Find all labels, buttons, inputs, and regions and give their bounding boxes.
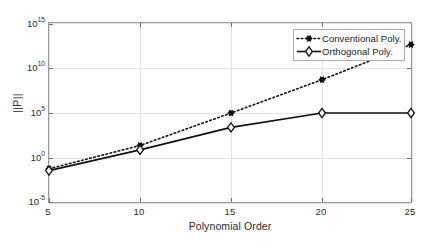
legend: Conventional Poly. Orthogonal Poly. bbox=[293, 29, 405, 61]
x-axis-label: Polynomial Order bbox=[48, 220, 412, 232]
yticklabel-1e5: 105 bbox=[31, 107, 45, 118]
series-line-orthogonal-poly bbox=[49, 113, 411, 171]
figure-canvas: 1015 1010 105 100 10-5 5 10 15 20 25 Pol… bbox=[0, 0, 437, 251]
xticklabel-20: 20 bbox=[316, 206, 327, 217]
xticklabel-25: 25 bbox=[405, 206, 416, 217]
legend-label-orthogonal-poly: Orthogonal Poly. bbox=[322, 46, 393, 57]
markers-orthogonal-poly bbox=[46, 108, 415, 175]
legend-label-conventional-poly: Conventional Poly. bbox=[322, 33, 401, 44]
yticklabel-1e0: 100 bbox=[31, 152, 45, 163]
yticklabel-1e15: 1015 bbox=[27, 18, 45, 29]
legend-entry-conventional-poly: Conventional Poly. bbox=[296, 32, 401, 45]
xticklabel-10: 10 bbox=[134, 206, 145, 217]
yticklabel-1e-5: 10-5 bbox=[29, 196, 45, 207]
legend-entry-orthogonal-poly: Orthogonal Poly. bbox=[296, 45, 401, 58]
xticklabel-5: 5 bbox=[45, 206, 50, 217]
markers-conventional-poly bbox=[46, 42, 415, 172]
xticklabel-15: 15 bbox=[225, 206, 236, 217]
series-line-conventional-poly bbox=[49, 45, 411, 169]
legend-swatch-conventional-poly bbox=[296, 32, 322, 45]
legend-swatch-orthogonal-poly bbox=[296, 45, 322, 58]
y-axis-label: ||P|| bbox=[11, 73, 23, 133]
yticklabel-1e10: 1010 bbox=[27, 62, 45, 73]
